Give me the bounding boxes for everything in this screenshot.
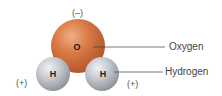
- water-molecule-diagram: O H H (–) (+) (+) Oxygen Hydrogen: [0, 0, 222, 96]
- hydrogen-right-symbol: H: [100, 69, 107, 79]
- hydrogen-label: Hydrogen: [165, 67, 208, 77]
- oxygen-charge: (–): [72, 9, 83, 18]
- oxygen-symbol: O: [73, 42, 80, 52]
- hydrogen-right-charge: (+): [127, 80, 138, 89]
- hydrogen-left-charge: (+): [16, 79, 27, 88]
- hydrogen-left-symbol: H: [50, 69, 57, 79]
- oxygen-label: Oxygen: [169, 42, 203, 52]
